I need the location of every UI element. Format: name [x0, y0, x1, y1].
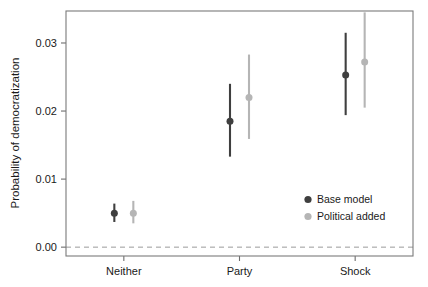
- y-axis-title: Probability of democratization: [9, 58, 21, 209]
- data-point-marker: [227, 118, 234, 125]
- chart-container: 0.000.010.020.03 NeitherPartyShock Proba…: [0, 0, 428, 287]
- x-axis-category-label-group: NeitherPartyShock: [106, 256, 371, 277]
- legend-label-1: Base model: [317, 193, 372, 205]
- y-axis-tick-group: 0.000.010.020.03: [36, 37, 66, 253]
- x-axis-category-label: Shock: [340, 265, 371, 277]
- x-axis-category-label: Party: [227, 265, 253, 277]
- data-point-marker: [361, 59, 368, 66]
- legend-marker-1: [304, 196, 311, 203]
- y-axis-tick-label: 0.01: [36, 173, 57, 185]
- legend-label-2: Political added: [317, 210, 385, 222]
- data-point-marker: [130, 210, 137, 217]
- data-point-marker: [246, 94, 253, 101]
- x-axis-category-label: Neither: [106, 265, 142, 277]
- data-point-marker: [342, 71, 349, 78]
- democratization-probability-chart: 0.000.010.020.03 NeitherPartyShock Proba…: [0, 0, 428, 287]
- legend-marker-2: [304, 213, 311, 220]
- y-axis-tick-label: 0.02: [36, 105, 57, 117]
- y-axis-tick-label: 0.00: [36, 241, 57, 253]
- data-point-marker: [111, 210, 118, 217]
- y-axis-tick-label: 0.03: [36, 37, 57, 49]
